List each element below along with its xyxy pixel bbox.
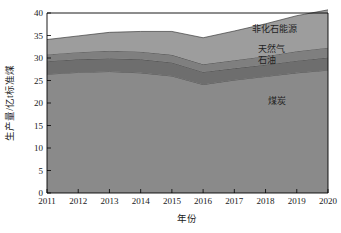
y-tick-label: 40 [34, 8, 44, 18]
x-tick-label: 2019 [288, 196, 307, 206]
x-tick-label: 2016 [194, 196, 213, 206]
y-tick-label: 25 [34, 76, 44, 86]
series-inline-label: 煤炭 [268, 95, 286, 106]
y-tick-label: 30 [34, 53, 44, 63]
chart-canvas: 0510152025303540 20112012201320142015201… [0, 0, 341, 233]
x-tick-label: 2012 [69, 196, 87, 206]
area-band [47, 70, 328, 193]
y-axis-title: 生产量/亿t标准煤 [4, 65, 15, 140]
y-tick-label: 35 [34, 31, 44, 41]
series-inline-label: 石油 [258, 54, 276, 65]
stacked-area-chart: 0510152025303540 20112012201320142015201… [0, 0, 341, 233]
series-inline-label: 天然气 [258, 43, 285, 54]
y-tick-label: 10 [34, 143, 44, 153]
x-tick-label: 2017 [225, 196, 244, 206]
y-tick-label: 15 [34, 121, 44, 131]
x-axis-title: 年份 [177, 213, 197, 224]
x-tick-label: 2011 [38, 196, 56, 206]
x-tick-label: 2015 [163, 196, 182, 206]
x-tick-label: 2013 [100, 196, 119, 206]
y-tick-label: 5 [39, 166, 44, 176]
series-inline-label: 非化石能源 [252, 23, 297, 34]
x-tick-label: 2020 [319, 196, 338, 206]
y-tick-label: 20 [34, 98, 44, 108]
x-tick-label: 2014 [132, 196, 151, 206]
x-tick-label: 2018 [257, 196, 276, 206]
